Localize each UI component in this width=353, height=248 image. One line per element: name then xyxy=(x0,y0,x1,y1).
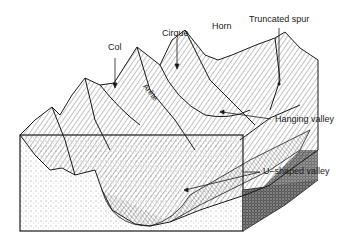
label-u-shaped-valley: U–shaped valley xyxy=(263,167,330,176)
label-horn: Horn xyxy=(212,22,232,31)
label-cirque: Cirque xyxy=(162,29,189,38)
glacial-landforms-diagram: Col Cirque Horn Truncated spur Arête Han… xyxy=(0,0,353,248)
label-hanging-valley: Hanging valley xyxy=(275,115,334,124)
label-col: Col xyxy=(108,43,122,52)
label-truncated-spur: Truncated spur xyxy=(249,15,309,24)
